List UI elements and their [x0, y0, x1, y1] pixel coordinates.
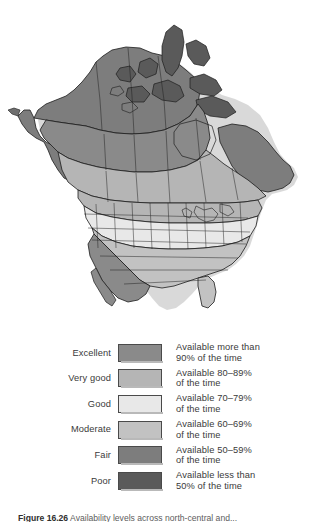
legend-label-fair: Fair — [0, 450, 118, 460]
map-region-florida — [198, 276, 216, 308]
legend-desc-line2: of the time — [176, 455, 311, 466]
map-regions — [8, 25, 294, 308]
legend-swatch-cell — [118, 344, 170, 362]
figure-caption-text: Availability levels across north-central… — [70, 513, 237, 522]
legend-swatch-cell — [118, 472, 170, 490]
legend-label-moderate: Moderate — [0, 424, 118, 434]
legend-desc-line1: Available 60–69% — [176, 419, 311, 430]
legend-label-poor: Poor — [0, 476, 118, 486]
legend-desc-excellent: Available more than 90% of the time — [170, 342, 311, 363]
legend-row: Very good Available 80–89% of the time — [0, 366, 311, 392]
legend-swatch-poor — [118, 472, 162, 490]
legend-swatch-fair — [118, 446, 162, 464]
figure-caption: Figure 16.26 Availability levels across … — [18, 513, 298, 522]
legend-row: Poor Available less than 50% of the time — [0, 468, 311, 494]
legend-desc-line1: Available 70–79% — [176, 393, 311, 404]
legend-desc-moderate: Available 60–69% of the time — [170, 419, 311, 440]
legend-swatch-cell — [118, 395, 170, 413]
legend-swatch-very-good — [118, 369, 162, 387]
legend-swatch-excellent — [118, 344, 162, 362]
legend-swatch-cell — [118, 421, 170, 439]
figure-container: Excellent Available more than 90% of the… — [0, 0, 311, 522]
legend-row: Moderate Available 60–69% of the time — [0, 417, 311, 443]
legend-label-very-good: Very good — [0, 373, 118, 383]
legend-desc-line1: Available more than — [176, 342, 311, 353]
legend-desc-fair: Available 50–59% of the time — [170, 445, 311, 466]
legend-label-excellent: Excellent — [0, 348, 118, 358]
legend: Excellent Available more than 90% of the… — [0, 340, 311, 494]
legend-row: Excellent Available more than 90% of the… — [0, 340, 311, 366]
legend-desc-very-good: Available 80–89% of the time — [170, 368, 311, 389]
legend-desc-line2: of the time — [176, 404, 311, 415]
legend-swatch-moderate — [118, 421, 162, 439]
legend-swatch-good — [118, 395, 162, 413]
legend-desc-line2: of the time — [176, 378, 311, 389]
legend-desc-line1: Available 50–59% — [176, 445, 311, 456]
map-panel — [0, 0, 311, 336]
legend-swatch-cell — [118, 369, 170, 387]
legend-desc-poor: Available less than 50% of the time — [170, 470, 311, 491]
legend-row: Fair Available 50–59% of the time — [0, 442, 311, 468]
legend-desc-line2: 90% of the time — [176, 353, 311, 364]
legend-desc-line2: 50% of the time — [176, 481, 311, 492]
legend-label-good: Good — [0, 399, 118, 409]
legend-row: Good Available 70–79% of the time — [0, 391, 311, 417]
legend-desc-line1: Available less than — [176, 470, 311, 481]
legend-desc-line2: of the time — [176, 430, 311, 441]
legend-desc-line1: Available 80–89% — [176, 368, 311, 379]
north-america-map — [0, 0, 311, 336]
legend-desc-good: Available 70–79% of the time — [170, 393, 311, 414]
figure-caption-number: Figure 16.26 — [18, 513, 68, 522]
legend-swatch-cell — [118, 446, 170, 464]
map-region-aleutian — [8, 108, 20, 116]
